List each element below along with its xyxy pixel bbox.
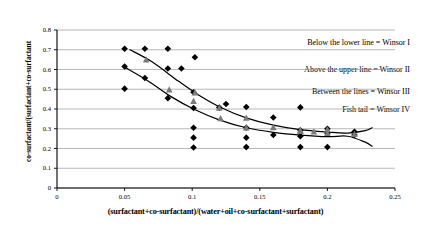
- data-point-diamond: [297, 104, 304, 111]
- upper-boundary-line: [130, 50, 372, 133]
- data-point-diamond: [192, 54, 199, 61]
- data-point-diamond: [165, 45, 172, 52]
- data-point-diamond: [178, 65, 185, 72]
- data-point-diamond: [297, 144, 304, 151]
- data-point-diamond: [121, 45, 128, 52]
- data-markers: [121, 45, 357, 150]
- data-point-diamond: [190, 134, 197, 141]
- gridlines: [57, 30, 395, 188]
- data-point-diamond: [142, 45, 149, 52]
- data-point-diamond: [243, 144, 250, 151]
- axis-lines: [54, 30, 395, 191]
- data-point-diamond: [190, 124, 197, 131]
- data-point-diamond: [190, 144, 197, 151]
- plot-area: [0, 0, 431, 228]
- data-point-diamond: [324, 144, 331, 151]
- chart-figure: co-surfactant/(surfactant+co-surfactant …: [0, 0, 431, 228]
- data-point-diamond: [223, 101, 230, 108]
- data-point-diamond: [243, 134, 250, 141]
- data-point-diamond: [121, 85, 128, 92]
- data-point-triangle: [217, 115, 224, 121]
- boundary-curves: [125, 50, 372, 146]
- data-point-triangle: [190, 98, 197, 104]
- data-point-diamond: [270, 114, 277, 121]
